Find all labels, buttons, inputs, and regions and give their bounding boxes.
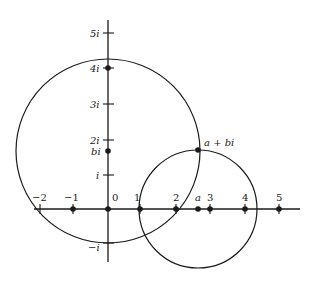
label-neg1: −1 [64, 192, 79, 203]
point-one [137, 206, 143, 212]
point-two [173, 206, 179, 212]
point-four [242, 206, 248, 212]
point-origin [105, 206, 111, 212]
label-bi: bi [91, 146, 101, 157]
point-three [207, 206, 213, 212]
diagram-canvas: −2 −1 0 1 2 a 3 4 5 5i 4i 3i 2i bi i −i … [0, 0, 318, 284]
point-five [276, 206, 282, 212]
complex-plane-diagram: −2 −1 0 1 2 a 3 4 5 5i 4i 3i 2i bi i −i … [0, 0, 318, 284]
point-4i [105, 65, 111, 71]
label-zero: 0 [112, 192, 118, 203]
label-4i: 4i [89, 63, 100, 74]
label-three: 3 [207, 192, 213, 203]
label-a-plus-bi: a + bi [204, 137, 234, 148]
label-one: 1 [134, 192, 140, 203]
points [70, 65, 282, 212]
label-3i: 3i [90, 99, 100, 110]
label-four: 4 [242, 192, 248, 203]
point-neg1 [70, 206, 76, 212]
point-bi [105, 148, 111, 154]
label-neg2: −2 [32, 192, 47, 203]
label-neg-i: −i [88, 242, 100, 253]
label-5i: 5i [90, 28, 100, 39]
label-two: 2 [173, 192, 179, 203]
point-a [195, 206, 201, 212]
label-a: a [195, 192, 201, 203]
label-2i: 2i [89, 135, 100, 146]
point-a-plus-bi [195, 147, 201, 153]
label-i: i [96, 170, 99, 181]
label-five: 5 [276, 192, 282, 203]
